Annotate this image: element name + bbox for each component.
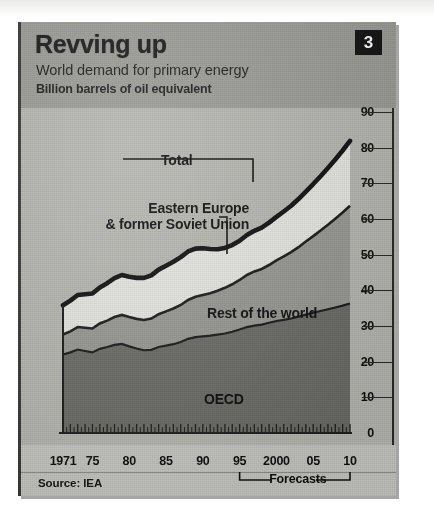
x-axis-tick-label: 05 — [307, 454, 320, 468]
series-label-rest-of-world: Rest of the world — [207, 305, 317, 321]
y-axis-tick-rule — [362, 326, 392, 327]
x-axis-tick-label: 10 — [343, 454, 356, 468]
y-axis-tick-rule — [362, 183, 392, 184]
forecast-label: Forecasts — [269, 472, 326, 486]
figure-page: Revving up World demand for primary ener… — [0, 0, 434, 521]
x-axis-tick-label: 90 — [196, 454, 209, 468]
y-axis-spine — [392, 108, 394, 445]
x-axis-tick-label: 1971 — [50, 454, 77, 468]
figure-left-rule — [18, 22, 21, 496]
chart-subtitle: World demand for primary energy — [36, 62, 249, 78]
figure-number-badge: 3 — [355, 30, 382, 55]
chart-title: Revving up — [35, 30, 167, 59]
x-axis-tick-label: 75 — [86, 454, 99, 468]
y-axis-tick-rule — [362, 219, 392, 220]
y-axis-tick-rule — [362, 255, 392, 256]
y-axis-tick-rule — [362, 290, 392, 291]
scan-artifact — [0, 0, 434, 16]
y-axis-tick-rule — [362, 112, 392, 113]
y-axis: 0102030405060708090 — [350, 108, 396, 445]
series-label-oecd: OECD — [204, 391, 244, 407]
series-label-total: Total — [161, 152, 192, 168]
y-axis-tick-rule — [362, 397, 392, 398]
chart-units-label: Billion barrels of oil equivalent — [36, 82, 211, 96]
x-axis-tick-label: 85 — [159, 454, 172, 468]
x-axis-tick-label: 95 — [233, 454, 246, 468]
series-label-eastern-europe: Eastern Europe& former Soviet Union — [89, 200, 249, 232]
y-axis-tick-label: 0 — [367, 426, 374, 440]
y-axis-tick-rule — [362, 362, 392, 363]
chart-figure: Revving up World demand for primary ener… — [18, 22, 396, 496]
source-note: Source: IEA — [38, 477, 102, 489]
x-axis-tick-label: 80 — [123, 454, 136, 468]
y-axis-tick-rule — [362, 148, 392, 149]
x-axis-tick-label: 2000 — [263, 454, 290, 468]
plot-area: 0102030405060708090 Total Eastern Europe… — [21, 108, 396, 445]
